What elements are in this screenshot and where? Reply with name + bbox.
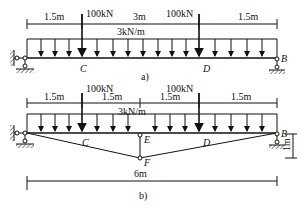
load-b-distributed: 3kN/m bbox=[118, 106, 146, 117]
point-a-B: B bbox=[281, 53, 287, 64]
point-b-B: B bbox=[281, 128, 287, 139]
span-dimension-b bbox=[27, 176, 277, 190]
point-b-F: F bbox=[143, 157, 151, 168]
diagram-a: 1.5m 3m 1.5m 100kN 100kN 3kN/m bbox=[10, 8, 287, 83]
caption-b: b) bbox=[139, 190, 147, 202]
structural-diagram: 1.5m 3m 1.5m 100kN 100kN 3kN/m bbox=[0, 0, 299, 208]
dim-a-1: 1.5m bbox=[44, 11, 65, 22]
point-a-C: C bbox=[80, 63, 87, 74]
left-support-b bbox=[10, 125, 34, 148]
distributed-load-b bbox=[27, 114, 277, 132]
dim-b-4: 1.5m bbox=[231, 91, 252, 102]
load-a-point-right: 100kN bbox=[166, 8, 193, 19]
left-support-a bbox=[10, 50, 34, 73]
dim-a-3: 1.5m bbox=[238, 11, 259, 22]
point-b-C: C bbox=[82, 137, 89, 148]
load-a-point-left: 100kN bbox=[86, 8, 113, 19]
span-label: 6m bbox=[134, 168, 147, 179]
diagram-b: 1.5m 1.5m 1.5m 1.5m 100kN 100kN 3kN/m bbox=[10, 83, 297, 202]
caption-a: a) bbox=[141, 71, 149, 83]
dim-a-2: 3m bbox=[133, 11, 146, 22]
distributed-load-a bbox=[27, 39, 277, 57]
point-b-E: E bbox=[143, 134, 150, 145]
load-b-point-left: 100kN bbox=[86, 83, 113, 94]
load-a-distributed: 3kN/m bbox=[117, 26, 145, 37]
dim-b-1: 1.5m bbox=[44, 91, 65, 102]
point-a-D: D bbox=[202, 63, 211, 74]
point-b-D: D bbox=[202, 137, 211, 148]
truss-b bbox=[27, 133, 277, 160]
load-b-point-right: 100kN bbox=[166, 83, 193, 94]
height-label: 1m bbox=[281, 138, 292, 151]
